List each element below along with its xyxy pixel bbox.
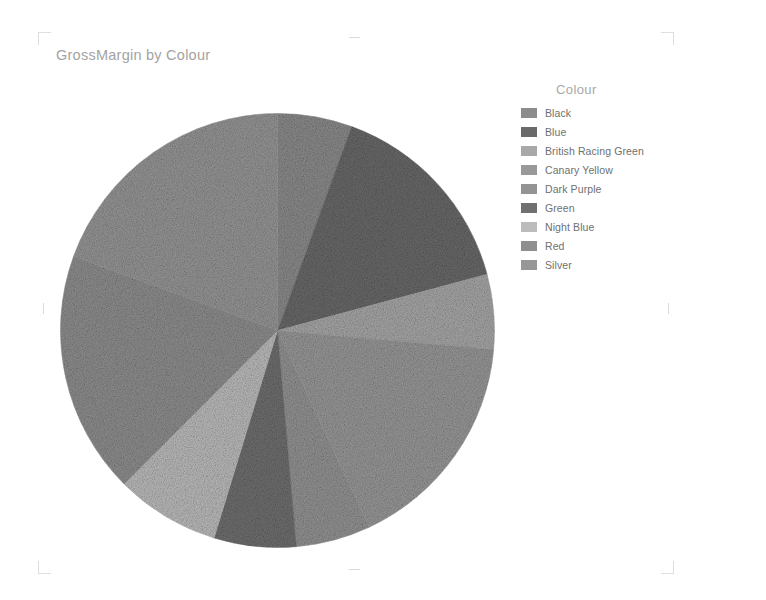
legend-item-label: Silver bbox=[545, 259, 572, 271]
legend-swatch-icon bbox=[521, 108, 537, 118]
legend-item-list: BlackBlueBritish Racing GreenCanary Yell… bbox=[521, 104, 721, 274]
legend-swatch-icon bbox=[521, 260, 537, 270]
edge-tick-bottom-center bbox=[349, 569, 360, 570]
edge-tick-right-center bbox=[668, 303, 669, 314]
legend-item[interactable]: British Racing Green bbox=[521, 142, 721, 160]
legend-swatch-icon bbox=[521, 241, 537, 251]
legend-swatch-icon bbox=[521, 222, 537, 232]
legend-item[interactable]: Red bbox=[521, 237, 721, 255]
legend-item-label: Green bbox=[545, 202, 575, 214]
legend-item[interactable]: Night Blue bbox=[521, 218, 721, 236]
legend-swatch-icon bbox=[521, 127, 537, 137]
legend-item[interactable]: Blue bbox=[521, 123, 721, 141]
legend-item[interactable]: Canary Yellow bbox=[521, 161, 721, 179]
legend-item-label: British Racing Green bbox=[545, 145, 644, 157]
chart-title: GrossMargin by Colour bbox=[56, 47, 210, 63]
legend-item-label: Night Blue bbox=[545, 221, 594, 233]
chart-canvas: GrossMargin by Colour Colour BlackBlueBr… bbox=[0, 0, 766, 600]
legend-item-label: Dark Purple bbox=[545, 183, 602, 195]
pie-svg[interactable] bbox=[60, 113, 495, 548]
legend-swatch-icon bbox=[521, 203, 537, 213]
pie-slice-group[interactable] bbox=[61, 114, 495, 548]
legend-swatch-icon bbox=[521, 165, 537, 175]
legend-item-label: Canary Yellow bbox=[545, 164, 613, 176]
legend-item-label: Black bbox=[545, 107, 571, 119]
legend-item[interactable]: Green bbox=[521, 199, 721, 217]
crop-mark-top-right bbox=[660, 32, 674, 46]
pie-chart[interactable] bbox=[60, 113, 495, 548]
legend-swatch-icon bbox=[521, 184, 537, 194]
edge-tick-top-center bbox=[349, 37, 360, 38]
crop-mark-bottom-left bbox=[38, 560, 52, 574]
crop-mark-bottom-right bbox=[660, 560, 674, 574]
legend-item[interactable]: Dark Purple bbox=[521, 180, 721, 198]
edge-tick-left-center bbox=[43, 303, 44, 314]
legend-swatch-icon bbox=[521, 146, 537, 156]
legend-item-label: Blue bbox=[545, 126, 566, 138]
legend-title: Colour bbox=[556, 82, 721, 97]
legend-item[interactable]: Silver bbox=[521, 256, 721, 274]
legend-item-label: Red bbox=[545, 240, 565, 252]
legend: Colour BlackBlueBritish Racing GreenCana… bbox=[521, 82, 721, 275]
legend-item[interactable]: Black bbox=[521, 104, 721, 122]
crop-mark-top-left bbox=[38, 32, 52, 46]
